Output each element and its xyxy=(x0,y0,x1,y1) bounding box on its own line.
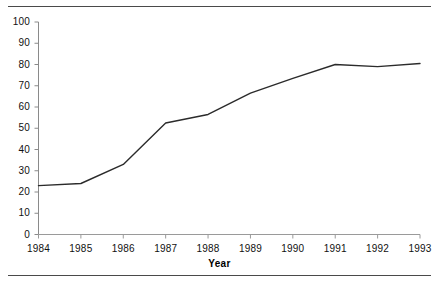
x-axis-tick-label: 1990 xyxy=(270,244,316,254)
y-axis-tick-label: 80 xyxy=(2,60,30,70)
data-series-line xyxy=(39,63,421,185)
chart-plot-area xyxy=(0,0,439,282)
x-axis-tick-label: 1993 xyxy=(397,244,439,254)
y-axis-tick-label: 40 xyxy=(2,145,30,155)
y-axis-tick-label: 10 xyxy=(2,208,30,218)
y-axis-tick-label: 20 xyxy=(2,187,30,197)
y-axis-tick-label: 50 xyxy=(2,123,30,133)
y-axis-tick-label: 60 xyxy=(2,102,30,112)
y-axis-tick-label: 90 xyxy=(2,38,30,48)
bottom-divider-rule xyxy=(8,275,431,276)
x-axis-tick-label: 1987 xyxy=(143,244,189,254)
x-axis-tick-label: 1988 xyxy=(185,244,231,254)
x-axis-title: Year xyxy=(0,258,439,269)
x-axis-tick-label: 1986 xyxy=(100,244,146,254)
x-axis-tick-label: 1984 xyxy=(16,244,62,254)
y-axis-tick-label: 100 xyxy=(2,17,30,27)
x-axis-tick-label: 1991 xyxy=(312,244,358,254)
line-chart-figure: 0102030405060708090100 19841985198619871… xyxy=(0,0,439,282)
y-axis-tick-label: 70 xyxy=(2,81,30,91)
y-axis-ticks xyxy=(35,22,39,235)
x-axis-tick-label: 1989 xyxy=(227,244,273,254)
y-axis-tick-label: 0 xyxy=(2,230,30,240)
y-axis-tick-label: 30 xyxy=(2,166,30,176)
x-axis-tick-label: 1992 xyxy=(355,244,401,254)
x-axis-tick-label: 1985 xyxy=(58,244,104,254)
x-axis-ticks xyxy=(39,235,421,239)
